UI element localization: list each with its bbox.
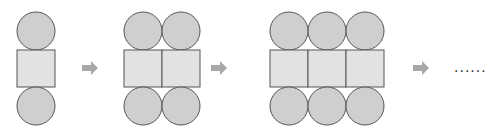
continuation-dots: ...... (454, 59, 487, 75)
square (270, 50, 308, 87)
bottom-circle (308, 87, 346, 125)
bottom-circle (346, 87, 384, 125)
top-circle (270, 12, 308, 50)
bottom-circle (17, 87, 55, 125)
bottom-circle (270, 87, 308, 125)
arrow-right-icon (82, 61, 98, 75)
square (308, 50, 346, 87)
square (346, 50, 384, 87)
bottom-circle (124, 87, 162, 125)
top-circle (162, 12, 200, 50)
pattern-diagram: ...... (0, 0, 492, 133)
arrow-right-icon (413, 61, 429, 75)
top-circle (17, 12, 55, 50)
bottom-circle (162, 87, 200, 125)
top-circle (346, 12, 384, 50)
arrow-right-icon (211, 61, 227, 75)
top-circle (124, 12, 162, 50)
square (162, 50, 200, 87)
square (124, 50, 162, 87)
top-circle (308, 12, 346, 50)
square (17, 50, 55, 87)
